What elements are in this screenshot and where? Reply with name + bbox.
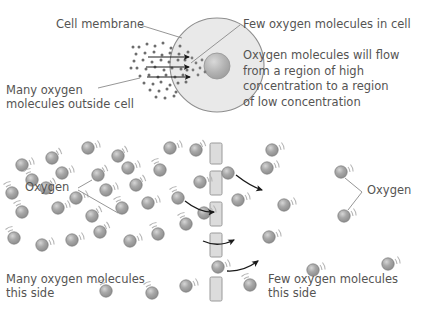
oxygen-molecule: [122, 161, 140, 175]
label-flow-statement: Oxygen molecules will flow from a region…: [243, 48, 399, 110]
oxygen-molecule: [70, 191, 88, 205]
cell-nucleus: [204, 53, 230, 79]
oxygen-molecule: [112, 146, 128, 162]
oxygen-molecule: [170, 187, 185, 205]
membrane-segment: [210, 143, 222, 164]
label-oxygen-left: Oxygen: [25, 181, 69, 195]
oxygen-molecule: [36, 238, 54, 252]
leader-oxygen-right: [345, 178, 362, 210]
oxygen-molecule: [150, 223, 165, 241]
oxygen-molecule: [52, 201, 70, 215]
oxygen-molecule-labelled-a: [335, 165, 353, 179]
oxygen-molecule: [152, 159, 167, 177]
label-cell-membrane: Cell membrane: [56, 18, 144, 32]
oxygen-molecule: [16, 158, 34, 172]
diagram-canvas: [0, 0, 445, 310]
oxygen-molecule: [4, 182, 19, 200]
label-many-oxygen-outside-cell: Many oxygen molecules outside cell: [6, 84, 134, 111]
oxygen-molecule: [100, 183, 118, 197]
oxygen-molecule: [46, 148, 62, 164]
oxygen-molecule: [124, 234, 142, 248]
oxygen-molecule: [242, 274, 257, 292]
membrane-segment: [210, 233, 222, 257]
label-many-oxygen-this-side: Many oxygen molecules this side: [6, 272, 145, 300]
oxygen-molecule: [130, 175, 146, 191]
oxygen-molecule: [82, 141, 100, 155]
oxygen-molecule: [266, 143, 284, 157]
label-few-oxygen-this-side: Few oxygen molecules this side: [268, 272, 398, 300]
oxygen-molecule: [86, 206, 102, 222]
crossing-arrow-4: [227, 261, 258, 271]
oxygen-molecule: [382, 257, 400, 271]
oxygen-molecule: [178, 213, 193, 231]
label-oxygen-right: Oxygen: [367, 184, 411, 198]
oxygen-molecule-labelled-b: [338, 209, 356, 223]
oxygen-molecule: [194, 175, 212, 189]
crossing-arrow-1: [236, 175, 262, 190]
oxygen-molecule: [92, 165, 108, 181]
leader-oxygen-left-a: [78, 180, 92, 188]
oxygen-molecule: [278, 198, 296, 212]
membrane-barrier: [210, 143, 222, 301]
oxygen-molecule: [222, 167, 234, 179]
oxygen-molecule: [66, 233, 84, 247]
oxygen-molecule: [164, 141, 182, 155]
membrane-segment: [210, 202, 222, 226]
oxygen-molecule: [144, 282, 159, 300]
oxygen-molecule: [14, 201, 29, 219]
oxygen-molecule: [56, 166, 74, 180]
oxygen-molecule: [94, 222, 110, 238]
membrane-segment: [210, 171, 222, 195]
oxygen-molecule: [180, 279, 198, 293]
leader-cell-membrane: [140, 25, 182, 38]
oxygen-molecule: [263, 230, 281, 244]
oxygen-molecule: [190, 140, 206, 156]
oxygen-molecule: [6, 227, 21, 245]
membrane-segment: [210, 277, 222, 301]
oxygen-molecule: [261, 161, 279, 175]
label-few-oxygen-in-cell: Few oxygen molecules in cell: [243, 18, 411, 32]
oxygen-molecule: [142, 196, 160, 210]
diffusion-diagram: Cell membrane Many oxygen molecules outs…: [0, 0, 445, 310]
oxygen-molecule: [232, 193, 250, 207]
leader-oxygen-left-b: [78, 190, 118, 213]
membrane-crossing-arrows: [185, 175, 262, 271]
right-molecules: [232, 143, 400, 292]
